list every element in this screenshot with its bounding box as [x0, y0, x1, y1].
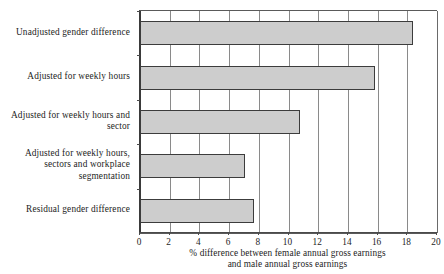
category-label-line: Adjusted for weekly hours and	[0, 110, 130, 121]
x-axis-tick-label: 10	[276, 237, 300, 248]
y-axis-tick	[137, 11, 140, 12]
gridline-20	[437, 11, 438, 233]
x-axis-tick	[317, 232, 318, 235]
category-label-line: Adjusted for weekly hours	[0, 71, 130, 82]
bar-row	[140, 66, 437, 90]
category-label: Adjusted for weekly hours,sectors and wo…	[0, 148, 130, 182]
category-label-line: Adjusted for weekly hours,	[0, 148, 130, 159]
x-axis-tick	[406, 232, 407, 235]
x-axis-tick	[228, 232, 229, 235]
bar-row	[140, 154, 437, 178]
bar	[140, 21, 413, 45]
x-axis-title-line-1: % difference between female annual gross…	[139, 248, 436, 259]
x-axis: 02468101214161820	[139, 232, 436, 233]
x-axis-tick-label: 12	[305, 237, 329, 248]
x-axis-tick	[436, 232, 437, 235]
category-label-line: sectors and workplace	[0, 159, 130, 170]
bar-row	[140, 199, 437, 223]
x-axis-tick-label: 16	[365, 237, 389, 248]
bar-chart: Unadjusted gender differenceAdjusted for…	[0, 0, 444, 274]
bar	[140, 66, 375, 90]
y-axis-tick	[137, 100, 140, 101]
bar	[140, 110, 300, 134]
y-axis-tick	[137, 55, 140, 56]
x-axis-title-line-2: and male annual gross earnings	[139, 259, 436, 270]
x-axis-tick-label: 18	[394, 237, 418, 248]
x-axis-tick-label: 0	[127, 237, 151, 248]
bar	[140, 154, 245, 178]
category-label: Residual gender difference	[0, 204, 130, 215]
plot-area	[139, 10, 437, 234]
category-label-line: sector	[0, 121, 130, 132]
x-axis-tick	[377, 232, 378, 235]
x-axis-tick-label: 2	[157, 237, 181, 248]
x-axis-tick	[198, 232, 199, 235]
bar-row	[140, 21, 437, 45]
x-axis-tick-label: 14	[335, 237, 359, 248]
category-label-line: Unadjusted gender difference	[0, 27, 130, 38]
x-axis-tick	[139, 232, 140, 235]
x-axis-tick	[169, 232, 170, 235]
x-axis-tick-label: 8	[246, 237, 270, 248]
x-axis-tick	[347, 232, 348, 235]
category-label: Adjusted for weekly hours	[0, 71, 130, 82]
category-label-line: segmentation	[0, 171, 130, 182]
x-axis-tick-label: 6	[216, 237, 240, 248]
y-axis-tick	[137, 189, 140, 190]
bar-row	[140, 110, 437, 134]
x-axis-tick-label: 4	[186, 237, 210, 248]
x-axis-title: % difference between female annual gross…	[139, 248, 436, 271]
x-axis-tick	[288, 232, 289, 235]
category-label-line: Residual gender difference	[0, 204, 130, 215]
x-axis-tick-label: 20	[424, 237, 444, 248]
y-axis-tick	[137, 144, 140, 145]
bar	[140, 199, 254, 223]
category-axis-labels: Unadjusted gender differenceAdjusted for…	[0, 10, 134, 232]
category-label: Unadjusted gender difference	[0, 27, 130, 38]
x-axis-tick	[258, 232, 259, 235]
category-label: Adjusted for weekly hours andsector	[0, 110, 130, 133]
